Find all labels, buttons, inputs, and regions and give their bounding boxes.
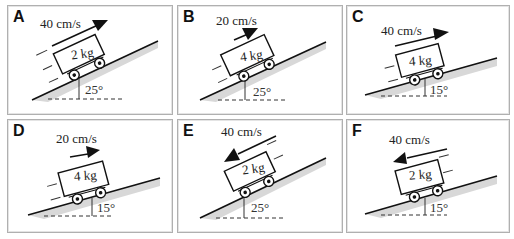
speed-label: 40 cm/s (381, 23, 422, 39)
angle-label: 15° (430, 82, 448, 98)
angle-label: 25° (253, 84, 271, 100)
velocity-arrow-f (393, 149, 447, 164)
speed-label: 20 cm/s (56, 131, 97, 147)
mass-label: 4 kg (239, 46, 264, 65)
mass-label: 4 kg (408, 52, 432, 70)
panel-c: C 40 cm/s 4 kg 15° (346, 5, 510, 115)
panel-label: B (183, 8, 195, 26)
velocity-arrow-d (70, 146, 100, 158)
angle-label: 25° (251, 200, 269, 216)
panel-label: F (352, 122, 362, 140)
velocity-arrow-b (234, 28, 258, 40)
panel-a: A 40 cm/s 2 kg 25° (7, 5, 173, 115)
mass-label: 2 kg (241, 159, 266, 178)
angle-label: 25° (85, 82, 103, 98)
angle-label: 15° (430, 200, 448, 216)
panel-a-drawing (8, 6, 174, 116)
panel-d: D 20 cm/s 4 kg 15° (7, 119, 173, 233)
mass-label: 4 kg (73, 167, 97, 185)
panel-f: F 40 cm/s 2 kg 15° (346, 119, 510, 233)
panel-label: D (13, 122, 25, 140)
speed-label: 20 cm/s (216, 13, 257, 29)
cut-off-caption (0, 0, 514, 3)
panel-label: A (13, 8, 25, 26)
panel-label: E (183, 122, 194, 140)
speed-label: 40 cm/s (40, 16, 81, 32)
speed-label: 40 cm/s (389, 132, 430, 148)
angle-label: 15° (97, 200, 115, 216)
speed-label: 40 cm/s (221, 124, 262, 140)
panel-e: E 40 cm/s 2 kg 25° (177, 119, 343, 233)
mass-label: 2 kg (408, 166, 432, 184)
panel-b: B 20 cm/s 4 kg 25° (177, 5, 343, 115)
mass-label: 2 kg (70, 44, 95, 63)
panel-label: C (352, 8, 364, 26)
